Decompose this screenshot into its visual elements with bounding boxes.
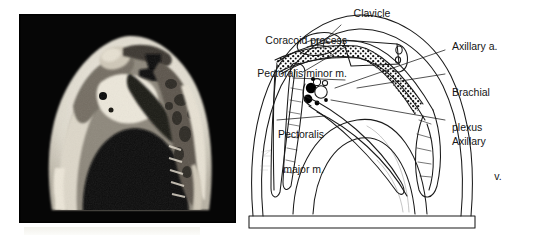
label-pectoralis-major-line2: major m. [238, 164, 324, 176]
label-pectoralis-major-line1: Pectoralis [238, 129, 324, 141]
paper-smudge [24, 227, 200, 235]
figure-root: Clavicle Coracoid process Pectoralis min… [0, 0, 533, 235]
label-clavicle: Clavicle [337, 8, 407, 20]
mri-axial-scan [19, 14, 236, 223]
label-pectoralis-minor: Pectoralis minor m. [226, 68, 347, 80]
label-pectoralis-major: Pectoralis major m. [238, 106, 324, 198]
label-axillary-vein-line1: Axillary [452, 136, 530, 148]
label-coracoid-process: Coracoid process [243, 35, 347, 47]
label-axillary-artery: Axillary a. [452, 41, 532, 53]
label-axillary-vein-line2: v. [452, 171, 530, 183]
label-brachial-plexus-line1: Brachial [452, 87, 530, 99]
label-axillary-vein: Axillary v. [452, 113, 530, 205]
